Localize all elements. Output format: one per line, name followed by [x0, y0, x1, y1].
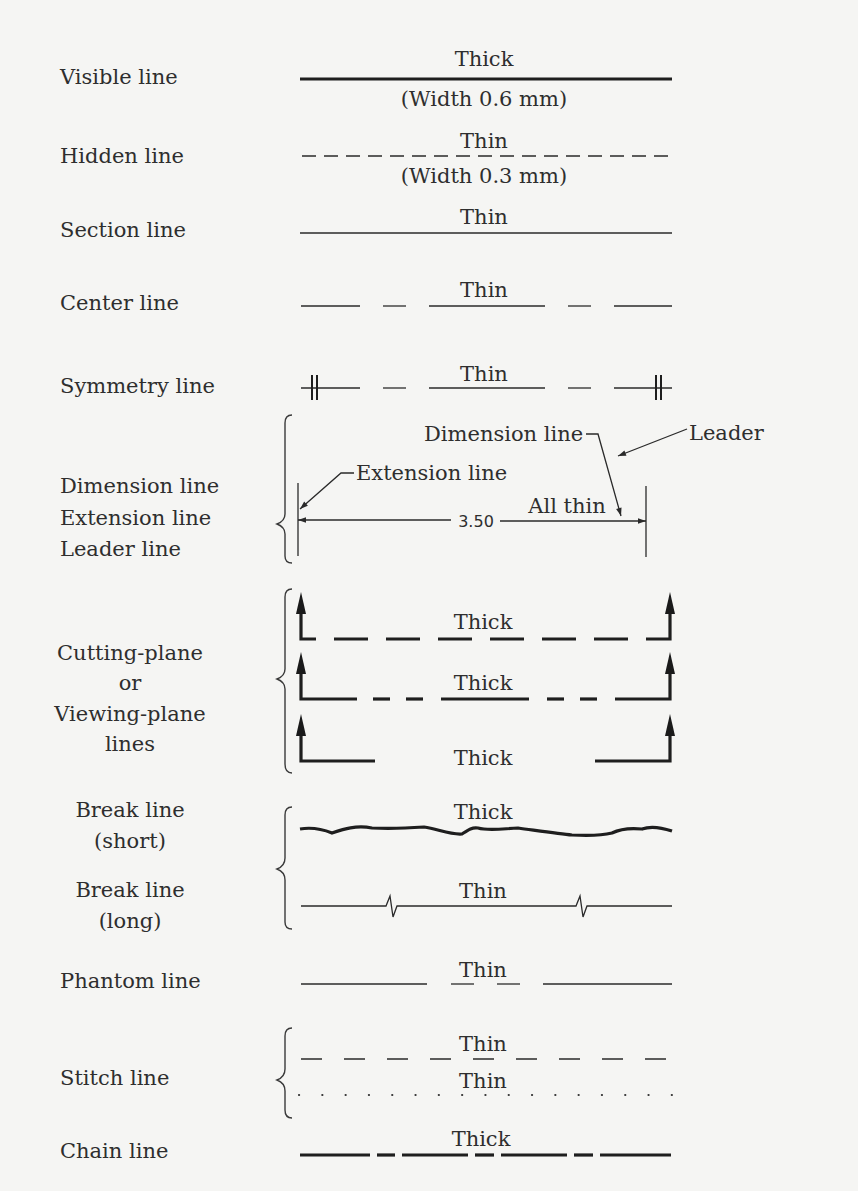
break-line-short — [300, 827, 672, 836]
caption-hidden-width: (Width 0.3 mm) — [401, 164, 567, 188]
label-cutting-plane: Cutting-plane — [57, 641, 203, 665]
caption-break-short: Thick — [454, 800, 513, 824]
label-hidden-line: Hidden line — [60, 144, 184, 168]
label-stitch-line: Stitch line — [60, 1066, 169, 1090]
label-break-line-short: Break line — [75, 798, 184, 822]
caption-phantom-thin: Thin — [459, 958, 507, 982]
label-break-short-paren: (short) — [94, 829, 166, 853]
caption-center-thin: Thin — [460, 278, 508, 302]
label-viewing-plane: Viewing-plane — [53, 702, 205, 726]
caption-break-long: Thin — [459, 879, 507, 903]
dimension-value: 3.50 — [458, 512, 494, 531]
label-visible-line: Visible line — [59, 65, 178, 89]
label-section-line: Section line — [60, 218, 186, 242]
caption-all-thin: All thin — [527, 494, 605, 518]
callout-leader: Leader — [689, 421, 765, 445]
leader-to-extension-line — [300, 473, 354, 509]
label-break-line-long: Break line — [75, 878, 184, 902]
caption-cutting-3: Thick — [454, 746, 513, 770]
caption-stitch-dot: Thin — [459, 1069, 507, 1093]
callout-extension-line: Extension line — [356, 461, 507, 485]
line-types-diagram: Visible line Hidden line Section line Ce… — [0, 0, 858, 1191]
caption-cutting-1: Thick — [454, 610, 513, 634]
label-chain-line: Chain line — [60, 1139, 168, 1163]
caption-stitch-dash: Thin — [459, 1032, 507, 1056]
caption-hidden-thin: Thin — [460, 129, 508, 153]
label-leader-line: Leader line — [60, 537, 181, 561]
caption-cutting-2: Thick — [454, 671, 513, 695]
label-symmetry-line: Symmetry line — [60, 374, 215, 398]
brace-dimension-group — [277, 415, 292, 563]
label-break-long-paren: (long) — [99, 909, 162, 933]
caption-chain-thick: Thick — [452, 1127, 511, 1151]
label-dimension-line: Dimension line — [60, 474, 219, 498]
brace-stitch-line-group — [277, 1028, 292, 1118]
callout-dimension-line: Dimension line — [424, 422, 583, 446]
label-lines: lines — [105, 732, 155, 756]
diagram-svg: Visible line Hidden line Section line Ce… — [0, 0, 858, 1191]
caption-visible-thick: Thick — [455, 47, 514, 71]
leader-arrow — [618, 429, 687, 456]
label-center-line: Center line — [60, 291, 179, 315]
caption-symmetry-thin: Thin — [460, 362, 508, 386]
caption-visible-width: (Width 0.6 mm) — [401, 87, 567, 111]
label-or: or — [119, 671, 143, 695]
brace-break-line-group — [277, 807, 292, 929]
label-phantom-line: Phantom line — [60, 969, 201, 993]
caption-section-thin: Thin — [460, 205, 508, 229]
label-extension-line: Extension line — [60, 506, 211, 530]
brace-cutting-plane-group — [277, 589, 292, 773]
